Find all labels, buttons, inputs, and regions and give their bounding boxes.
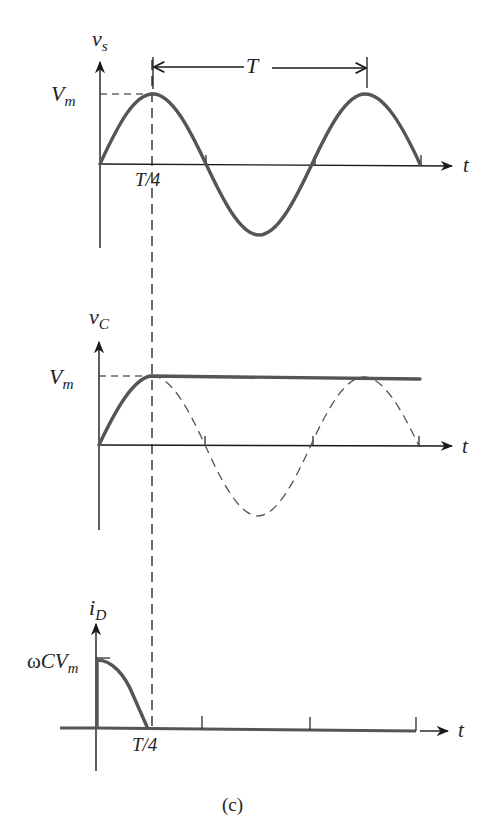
id-quarter-label: T/4 — [132, 735, 157, 754]
vs-ylabel-main: v — [92, 26, 102, 51]
id-t-label: t — [458, 720, 464, 741]
vc-ylabel-main: v — [89, 304, 99, 329]
vc-t-text: t — [462, 434, 468, 458]
vc-peak-label: Vm — [49, 366, 74, 392]
id-waveform — [97, 660, 148, 729]
plot-id — [60, 624, 448, 771]
id-t-axis — [96, 728, 416, 731]
id-t-text: t — [458, 718, 464, 742]
figure-caption: (c) — [222, 795, 243, 814]
id-ylabel-sub: D — [95, 606, 106, 623]
vc-peak-main: V — [49, 364, 62, 389]
vs-t-text: t — [463, 153, 469, 177]
period-text: T — [246, 53, 258, 78]
id-peak-sub: m — [68, 660, 79, 676]
vs-ylabel-sub: s — [102, 37, 108, 54]
vc-ylabel-sub: C — [99, 315, 109, 332]
vs-quarter-label: T/4 — [135, 170, 160, 189]
id-quarter-text: T/4 — [132, 734, 157, 755]
vs-peak-sub: m — [64, 92, 75, 109]
period-label: T — [246, 55, 258, 77]
plot-vs — [100, 57, 452, 248]
vs-t-axis — [100, 164, 452, 166]
id-ylabel: iD — [89, 597, 106, 623]
caption-text: (c) — [222, 794, 243, 815]
vs-ylabel: vs — [92, 28, 108, 54]
id-peak-label: ωCVm — [27, 651, 78, 676]
vs-quarter-text: T/4 — [135, 169, 160, 190]
vs-t-label: t — [463, 155, 469, 176]
vc-t-axis — [99, 445, 452, 446]
vc-ylabel: vC — [89, 306, 109, 332]
vc-waveform — [99, 376, 420, 445]
id-peak-c: C — [41, 649, 55, 673]
waveform-figure — [0, 0, 494, 838]
id-peak-main: V — [55, 649, 68, 673]
vc-peak-sub: m — [62, 375, 73, 392]
vs-peak-label: Vm — [51, 83, 76, 109]
vc-t-label: t — [462, 436, 468, 457]
vs-peak-main: V — [51, 81, 64, 106]
omega-glyph: ω — [27, 649, 41, 673]
